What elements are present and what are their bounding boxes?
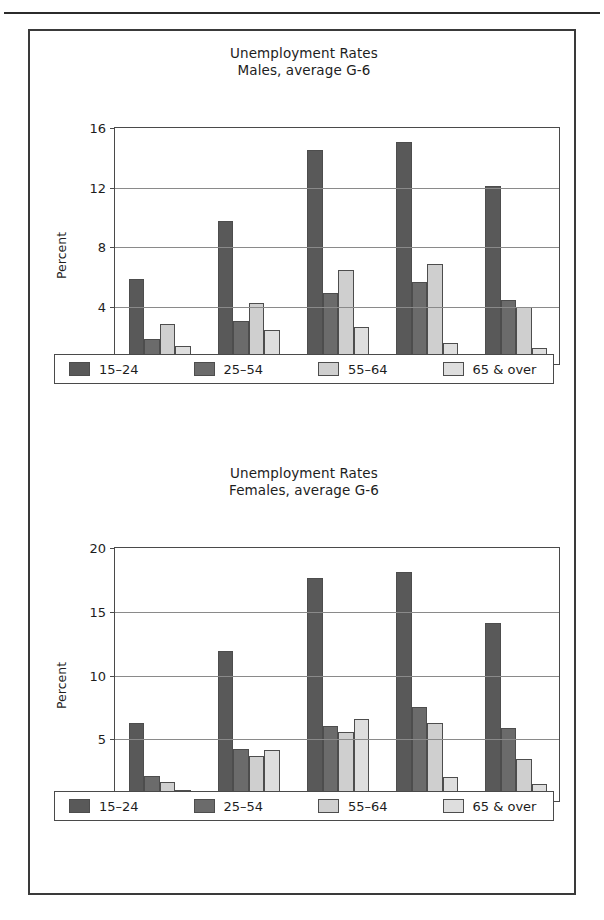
y-axis-label-females: Percent: [54, 662, 69, 709]
legend-swatch-55-64: [318, 362, 339, 376]
bar: [129, 279, 145, 364]
bar: [427, 723, 443, 801]
bar-group: [485, 548, 547, 801]
legend-label: 15–24: [99, 362, 139, 377]
figure-page: Unemployment Rates Males, average G-6 Pe…: [0, 0, 604, 920]
y-tick-label: 12: [89, 180, 115, 195]
y-tick-label: 20: [89, 541, 115, 556]
chart-title-females-line2: Females, average G-6: [30, 482, 578, 499]
chart-title-males: Unemployment Rates Males, average G-6: [30, 31, 578, 79]
gridline: [115, 307, 559, 308]
y-axis-label-males: Percent: [54, 232, 69, 279]
bar: [354, 719, 370, 801]
gridline: [115, 188, 559, 189]
legend-swatch-65-over: [443, 799, 464, 813]
bar-group: [218, 128, 280, 364]
bars-container-males: [115, 128, 559, 364]
legend-swatch-15-24: [69, 362, 90, 376]
legend-item[interactable]: 15–24: [55, 362, 180, 377]
y-tick-label: 10: [89, 668, 115, 683]
chart-title-males-line2: Males, average G-6: [30, 62, 578, 79]
header-rule: [4, 12, 600, 14]
y-tick-label: 8: [98, 240, 115, 255]
bar: [338, 270, 354, 364]
legend-item[interactable]: 25–54: [180, 799, 305, 814]
y-tick-label: 16: [89, 121, 115, 136]
bar: [396, 142, 412, 364]
plot-area-females: 05101520: [114, 547, 560, 802]
plot-area-males: 0481216: [114, 127, 560, 365]
chart-title-females-line1: Unemployment Rates: [230, 465, 378, 481]
figure-outer-frame: Unemployment Rates Males, average G-6 Pe…: [28, 29, 576, 895]
gridline: [115, 247, 559, 248]
gridline: [115, 676, 559, 677]
legend-swatch-65-over: [443, 362, 464, 376]
legend-swatch-25-54: [194, 362, 215, 376]
gridline: [115, 739, 559, 740]
bar: [427, 264, 443, 364]
bar-group: [129, 128, 191, 364]
legend-label: 15–24: [99, 799, 139, 814]
legend-item[interactable]: 55–64: [304, 362, 429, 377]
chart-title-females: Unemployment Rates Females, average G-6: [30, 451, 578, 499]
bar: [129, 723, 145, 801]
legend-males: 15–2425–5455–6465 & over: [54, 354, 554, 384]
legend-item[interactable]: 15–24: [55, 799, 180, 814]
bar: [485, 623, 501, 802]
bar-group: [218, 548, 280, 801]
gridline: [115, 612, 559, 613]
bar-group: [485, 128, 547, 364]
bar-group: [129, 548, 191, 801]
bar-group: [307, 128, 369, 364]
bar: [307, 150, 323, 364]
legend-females: 15–2425–5455–6465 & over: [54, 791, 554, 821]
bars-container-females: [115, 548, 559, 801]
legend-item[interactable]: 55–64: [304, 799, 429, 814]
bar: [412, 707, 428, 801]
legend-swatch-25-54: [194, 799, 215, 813]
legend-label: 25–54: [224, 362, 264, 377]
legend-swatch-15-24: [69, 799, 90, 813]
bar: [485, 186, 501, 365]
legend-swatch-55-64: [318, 799, 339, 813]
chart-panel-females: Unemployment Rates Females, average G-6 …: [30, 451, 578, 881]
y-tick-label: 5: [98, 732, 115, 747]
bar: [412, 282, 428, 364]
y-tick-label: 4: [98, 299, 115, 314]
bar: [323, 726, 339, 801]
legend-label: 55–64: [348, 799, 388, 814]
legend-item[interactable]: 65 & over: [429, 362, 554, 377]
legend-label: 25–54: [224, 799, 264, 814]
legend-label: 65 & over: [473, 799, 537, 814]
legend-item[interactable]: 25–54: [180, 362, 305, 377]
bar: [218, 651, 234, 801]
bar: [218, 221, 234, 364]
legend-label: 65 & over: [473, 362, 537, 377]
legend-label: 55–64: [348, 362, 388, 377]
bar: [396, 572, 412, 802]
chart-panel-males: Unemployment Rates Males, average G-6 Pe…: [30, 31, 578, 443]
bar-group: [396, 128, 458, 364]
bar-group: [307, 548, 369, 801]
legend-item[interactable]: 65 & over: [429, 799, 554, 814]
bar-group: [396, 548, 458, 801]
y-tick-label: 15: [89, 604, 115, 619]
chart-title-males-line1: Unemployment Rates: [230, 45, 378, 61]
